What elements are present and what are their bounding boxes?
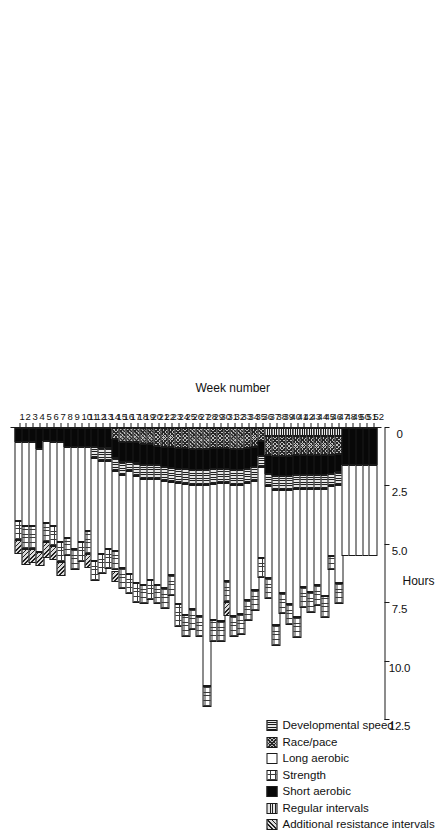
hours-tick-label: 7.5 bbox=[392, 603, 407, 615]
week-tick-label: 52 bbox=[373, 411, 384, 422]
hours-tick-label: 10.0 bbox=[389, 662, 411, 674]
week-tick bbox=[290, 423, 291, 427]
week-tick bbox=[199, 423, 200, 427]
week-tick bbox=[255, 423, 256, 427]
crosshatch-swatch bbox=[266, 736, 277, 747]
week-tick bbox=[164, 423, 165, 427]
week-tick-label: 1 bbox=[19, 411, 24, 422]
week-tick bbox=[366, 423, 367, 427]
hours-axis-title: Hours bbox=[402, 574, 434, 588]
week-tick-label: 9 bbox=[74, 411, 79, 422]
week-tick bbox=[171, 423, 172, 427]
week-tick bbox=[137, 423, 138, 427]
week-tick bbox=[213, 423, 214, 427]
legend-item-label: Race/pace bbox=[282, 735, 337, 748]
week-tick bbox=[53, 423, 54, 427]
week-tick bbox=[19, 423, 20, 427]
week-tick-label: 5 bbox=[46, 411, 51, 422]
week-tick bbox=[234, 423, 235, 427]
week-tick bbox=[352, 423, 353, 427]
week-tick bbox=[39, 423, 40, 427]
week-tick-label: 3 bbox=[32, 411, 37, 422]
legend-item-label: Additional resistance intervals bbox=[282, 818, 434, 831]
week-tick bbox=[317, 423, 318, 427]
week-tick bbox=[32, 423, 33, 427]
week-tick bbox=[331, 423, 332, 427]
segment-long bbox=[368, 465, 377, 556]
week-tick bbox=[241, 423, 242, 427]
week-tick bbox=[67, 423, 68, 427]
week-tick bbox=[158, 423, 159, 427]
vertical-lines-swatch bbox=[266, 802, 277, 813]
week-tick bbox=[144, 423, 145, 427]
bar-week-52 bbox=[368, 428, 377, 750]
segment-short bbox=[368, 428, 377, 465]
hours-tick bbox=[384, 602, 389, 603]
legend-item-label: Short aerobic bbox=[282, 785, 350, 798]
hours-tick bbox=[384, 544, 389, 545]
week-tick-label: 8 bbox=[67, 411, 72, 422]
week-axis-title: Week number bbox=[195, 381, 269, 395]
hours-tick-label: 2.5 bbox=[392, 486, 407, 498]
week-tick bbox=[60, 423, 61, 427]
week-tick bbox=[373, 423, 374, 427]
week-tick bbox=[359, 423, 360, 427]
week-tick bbox=[74, 423, 75, 427]
week-tick-label: 4 bbox=[39, 411, 44, 422]
hours-tick bbox=[384, 427, 389, 428]
week-tick bbox=[227, 423, 228, 427]
week-tick bbox=[116, 423, 117, 427]
week-tick bbox=[206, 423, 207, 427]
fine-dots-swatch bbox=[266, 769, 277, 780]
week-tick bbox=[262, 423, 263, 427]
week-tick bbox=[109, 423, 110, 427]
week-tick bbox=[151, 423, 152, 427]
week-tick bbox=[338, 423, 339, 427]
week-tick bbox=[25, 423, 26, 427]
week-tick bbox=[324, 423, 325, 427]
week-tick bbox=[95, 423, 96, 427]
week-tick-label: 6 bbox=[53, 411, 58, 422]
white-swatch bbox=[266, 753, 277, 764]
hours-tick-label: 0 bbox=[396, 428, 402, 440]
week-tick-label: 2 bbox=[25, 411, 30, 422]
week-tick bbox=[283, 423, 284, 427]
week-tick bbox=[192, 423, 193, 427]
week-tick bbox=[102, 423, 103, 427]
week-tick bbox=[178, 423, 179, 427]
week-tick bbox=[303, 423, 304, 427]
legend-item-label: Long aerobic bbox=[282, 752, 349, 765]
legend-item-label: Developmental speed bbox=[282, 719, 393, 732]
week-tick bbox=[297, 423, 298, 427]
week-tick bbox=[310, 423, 311, 427]
week-tick bbox=[345, 423, 346, 427]
legend-item-label: Regular intervals bbox=[282, 801, 368, 814]
week-tick bbox=[123, 423, 124, 427]
week-tick bbox=[46, 423, 47, 427]
diagonal-hatch-swatch bbox=[266, 819, 277, 830]
week-tick bbox=[81, 423, 82, 427]
solid-black-swatch bbox=[266, 786, 277, 797]
week-tick bbox=[269, 423, 270, 427]
week-tick bbox=[185, 423, 186, 427]
hours-axis-line bbox=[384, 428, 385, 720]
horizontal-lines-swatch bbox=[266, 720, 277, 731]
week-tick-label: 7 bbox=[60, 411, 65, 422]
week-tick bbox=[276, 423, 277, 427]
week-tick bbox=[220, 423, 221, 427]
hours-tick-label: 5.0 bbox=[392, 545, 407, 557]
legend-item-label: Strength bbox=[282, 768, 325, 781]
week-tick bbox=[130, 423, 131, 427]
week-tick bbox=[248, 423, 249, 427]
week-tick bbox=[88, 423, 89, 427]
hours-tick bbox=[384, 485, 389, 486]
